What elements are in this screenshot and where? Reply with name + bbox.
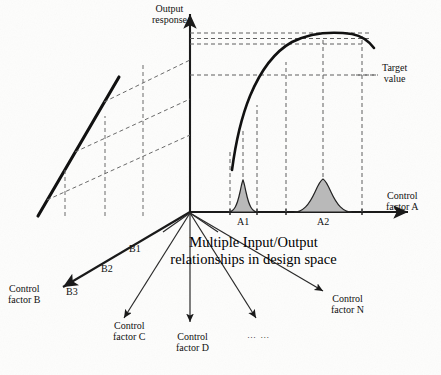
z-tick-label-b3: B3 [66, 286, 78, 297]
control-factor-c-label: Control factor C [113, 320, 146, 342]
figure-canvas: Output response Control factor A Control… [0, 0, 441, 375]
z-tick-label-b2: B2 [101, 263, 113, 274]
target-value-label: Target value [382, 62, 407, 84]
control-factor-n-label: Control factor N [331, 293, 364, 315]
x-axis-label: Control factor A [386, 190, 419, 212]
x-tick-label-a2: A2 [317, 216, 329, 227]
paper-texture [0, 0, 441, 375]
z-tick-label-b1: B1 [129, 243, 141, 254]
x-tick-label-a1: A1 [237, 216, 249, 227]
y-axis-label: Output response [152, 3, 187, 25]
diagram-svg [0, 0, 441, 375]
control-factor-d-label: Control factor D [176, 331, 209, 353]
ellipsis-label: … … [247, 330, 270, 341]
center-caption: Multiple Input/Output relationships in d… [146, 234, 361, 268]
z-axis-label: Control factor B [8, 283, 41, 305]
